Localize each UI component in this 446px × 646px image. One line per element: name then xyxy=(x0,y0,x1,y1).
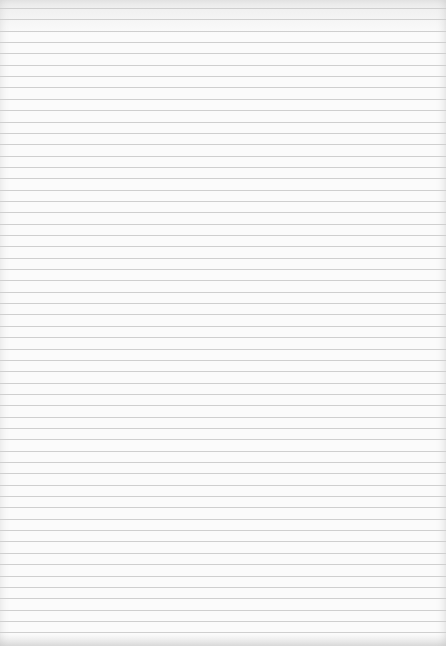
ruled-line xyxy=(0,110,446,111)
ruled-line xyxy=(0,610,446,611)
ruled-line xyxy=(0,292,446,293)
ruled-line xyxy=(0,99,446,100)
ruled-line xyxy=(0,87,446,88)
ruled-line xyxy=(0,133,446,134)
ruled-line xyxy=(0,439,446,440)
ruled-line xyxy=(0,224,446,225)
ruled-line xyxy=(0,156,446,157)
ruled-line xyxy=(0,178,446,179)
ruled-line xyxy=(0,564,446,565)
ruled-line xyxy=(0,190,446,191)
scan-shadow-bottom xyxy=(0,634,446,646)
ruled-line xyxy=(0,42,446,43)
ruled-line xyxy=(0,269,446,270)
ruled-line xyxy=(0,541,446,542)
ruled-line xyxy=(0,553,446,554)
ruled-line xyxy=(0,451,446,452)
lined-paper-page xyxy=(0,0,446,646)
ruled-line xyxy=(0,598,446,599)
ruled-line xyxy=(0,8,446,9)
ruled-line xyxy=(0,632,446,633)
ruled-line xyxy=(0,496,446,497)
ruled-line xyxy=(0,360,446,361)
ruled-line xyxy=(0,485,446,486)
ruled-line xyxy=(0,473,446,474)
ruled-line xyxy=(0,383,446,384)
ruled-line xyxy=(0,76,446,77)
ruled-line xyxy=(0,587,446,588)
ruled-line xyxy=(0,258,446,259)
ruled-line xyxy=(0,337,446,338)
ruled-line xyxy=(0,621,446,622)
ruled-line xyxy=(0,65,446,66)
ruled-line xyxy=(0,212,446,213)
ruled-line xyxy=(0,462,446,463)
ruled-line xyxy=(0,576,446,577)
scan-shadow-top xyxy=(0,0,446,34)
ruled-line xyxy=(0,235,446,236)
ruled-line xyxy=(0,417,446,418)
ruled-line xyxy=(0,144,446,145)
ruled-line xyxy=(0,405,446,406)
ruled-line xyxy=(0,19,446,20)
ruled-line xyxy=(0,371,446,372)
ruled-line xyxy=(0,349,446,350)
ruled-line xyxy=(0,314,446,315)
ruled-line xyxy=(0,394,446,395)
ruled-line xyxy=(0,303,446,304)
ruled-line xyxy=(0,280,446,281)
ruled-line xyxy=(0,326,446,327)
ruled-line xyxy=(0,530,446,531)
ruled-line xyxy=(0,507,446,508)
ruled-line xyxy=(0,428,446,429)
ruled-line xyxy=(0,519,446,520)
ruled-line xyxy=(0,201,446,202)
ruled-line xyxy=(0,246,446,247)
ruled-line xyxy=(0,31,446,32)
ruled-line xyxy=(0,122,446,123)
ruled-line xyxy=(0,53,446,54)
ruled-line xyxy=(0,167,446,168)
